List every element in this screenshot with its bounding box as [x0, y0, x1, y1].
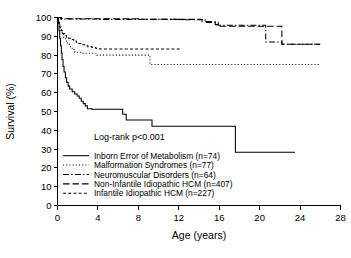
- legend-label-4: Infantile Idiopathic HCM (n=227): [94, 188, 215, 198]
- y-tick-label: 80: [41, 50, 52, 61]
- curve-non-infantile-idiopathic-hcm: [58, 18, 321, 45]
- curve-neuromuscular-disorders: [58, 18, 321, 45]
- curve-infantile-idiopathic-hcm: [58, 18, 182, 50]
- x-axis-title: Age (years): [172, 229, 226, 241]
- x-tick-label: 24: [295, 212, 306, 223]
- x-tick-label: 16: [214, 212, 225, 223]
- y-tick-label: 20: [41, 162, 52, 173]
- y-tick-label: 0: [46, 200, 51, 211]
- curve-malformation-syndromes: [58, 18, 321, 65]
- y-tick-label: 90: [41, 31, 52, 42]
- y-tick-label: 100: [36, 12, 52, 23]
- survival-chart-figure: 01020304050607080901000481216202428Age (…: [0, 0, 351, 258]
- y-tick-label: 70: [41, 68, 52, 79]
- log-rank-annotation: Log-rank p<0.001: [94, 132, 165, 142]
- x-tick-label: 20: [254, 212, 265, 223]
- x-tick-label: 12: [173, 212, 184, 223]
- y-axis-title: Survival (%): [4, 83, 16, 140]
- y-tick-label: 30: [41, 144, 52, 155]
- x-tick-label: 4: [95, 212, 100, 223]
- kaplan-meier-chart: 01020304050607080901000481216202428Age (…: [0, 0, 351, 258]
- y-tick-label: 50: [41, 106, 52, 117]
- x-tick-label: 8: [136, 212, 141, 223]
- x-tick-label: 28: [335, 212, 346, 223]
- y-axis-ticks: 0102030405060708090100: [36, 12, 58, 211]
- x-axis-ticks: 0481216202428: [55, 206, 346, 223]
- y-tick-label: 40: [41, 125, 52, 136]
- legend: Inborn Error of Metabolism (n=74)Malform…: [63, 151, 233, 199]
- x-tick-label: 0: [55, 212, 60, 223]
- y-tick-label: 60: [41, 87, 52, 98]
- y-tick-label: 10: [41, 181, 52, 192]
